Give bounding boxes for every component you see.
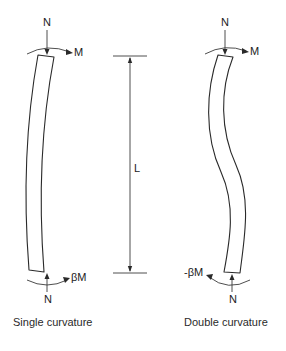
arrow-head-icon [223, 49, 228, 55]
arrow-head-icon [45, 273, 50, 279]
arrow-head-icon [242, 48, 249, 54]
double-curvature-caption: Double curvature [184, 317, 268, 328]
arrow-head-icon [63, 277, 70, 283]
right-top-axial-load-label: N [221, 17, 229, 28]
single-curvature-column [26, 30, 73, 292]
right-top-moment-label: M [250, 46, 259, 57]
double-curvature-column [205, 30, 250, 292]
left-top-moment-label: M [74, 47, 83, 58]
length-label: L [134, 163, 140, 174]
right-bottom-moment-label: -βM [184, 267, 203, 278]
arrow-head-icon [128, 57, 132, 63]
right-bottom-axial-load-label: N [229, 294, 237, 305]
left-bottom-axial-load-label: N [44, 294, 52, 305]
single-curvature-caption: Single curvature [13, 317, 93, 328]
arrow-head-icon [128, 266, 132, 272]
column-curvature-diagram [0, 0, 286, 351]
length-dimension [113, 56, 147, 273]
bottom-moment-arc [209, 277, 250, 285]
arrow-head-icon [45, 49, 50, 55]
arrow-head-icon [230, 274, 235, 280]
arrow-head-icon [66, 49, 73, 55]
left-bottom-moment-label: βM [71, 272, 87, 283]
column-body [26, 55, 54, 272]
left-top-axial-load-label: N [43, 17, 51, 28]
column-body [209, 55, 246, 273]
